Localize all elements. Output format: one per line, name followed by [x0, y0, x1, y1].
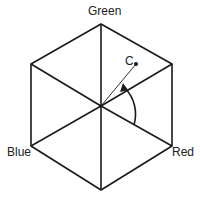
axis-lower-left [31, 106, 101, 146]
axis-lower-right [101, 106, 172, 146]
axis-upper-right [101, 64, 172, 106]
label-green: Green [88, 5, 121, 17]
vector-to-c [101, 64, 136, 106]
axis-upper-left [31, 64, 101, 106]
label-point-c: C [125, 55, 134, 67]
label-blue: Blue [7, 146, 31, 158]
point-c-dot [134, 62, 138, 66]
hue-angle-arc [125, 88, 136, 125]
hexagon-diagram [0, 0, 200, 201]
label-red: Red [172, 146, 194, 158]
